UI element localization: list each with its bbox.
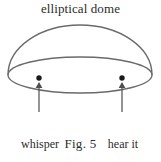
base-ellipse [8, 57, 152, 93]
hear-arrow-head-icon [119, 82, 126, 88]
dome-arc [8, 25, 152, 75]
figure-title: elliptical dome [0, 2, 161, 16]
elliptical-dome-figure: elliptical dome whisper here hear it her… [0, 0, 161, 162]
focus-dot-left [36, 75, 41, 80]
whisper-arrow-head-icon [36, 82, 43, 88]
figure-caption: Fig. 5 [0, 137, 161, 151]
focus-dot-right [119, 75, 124, 80]
